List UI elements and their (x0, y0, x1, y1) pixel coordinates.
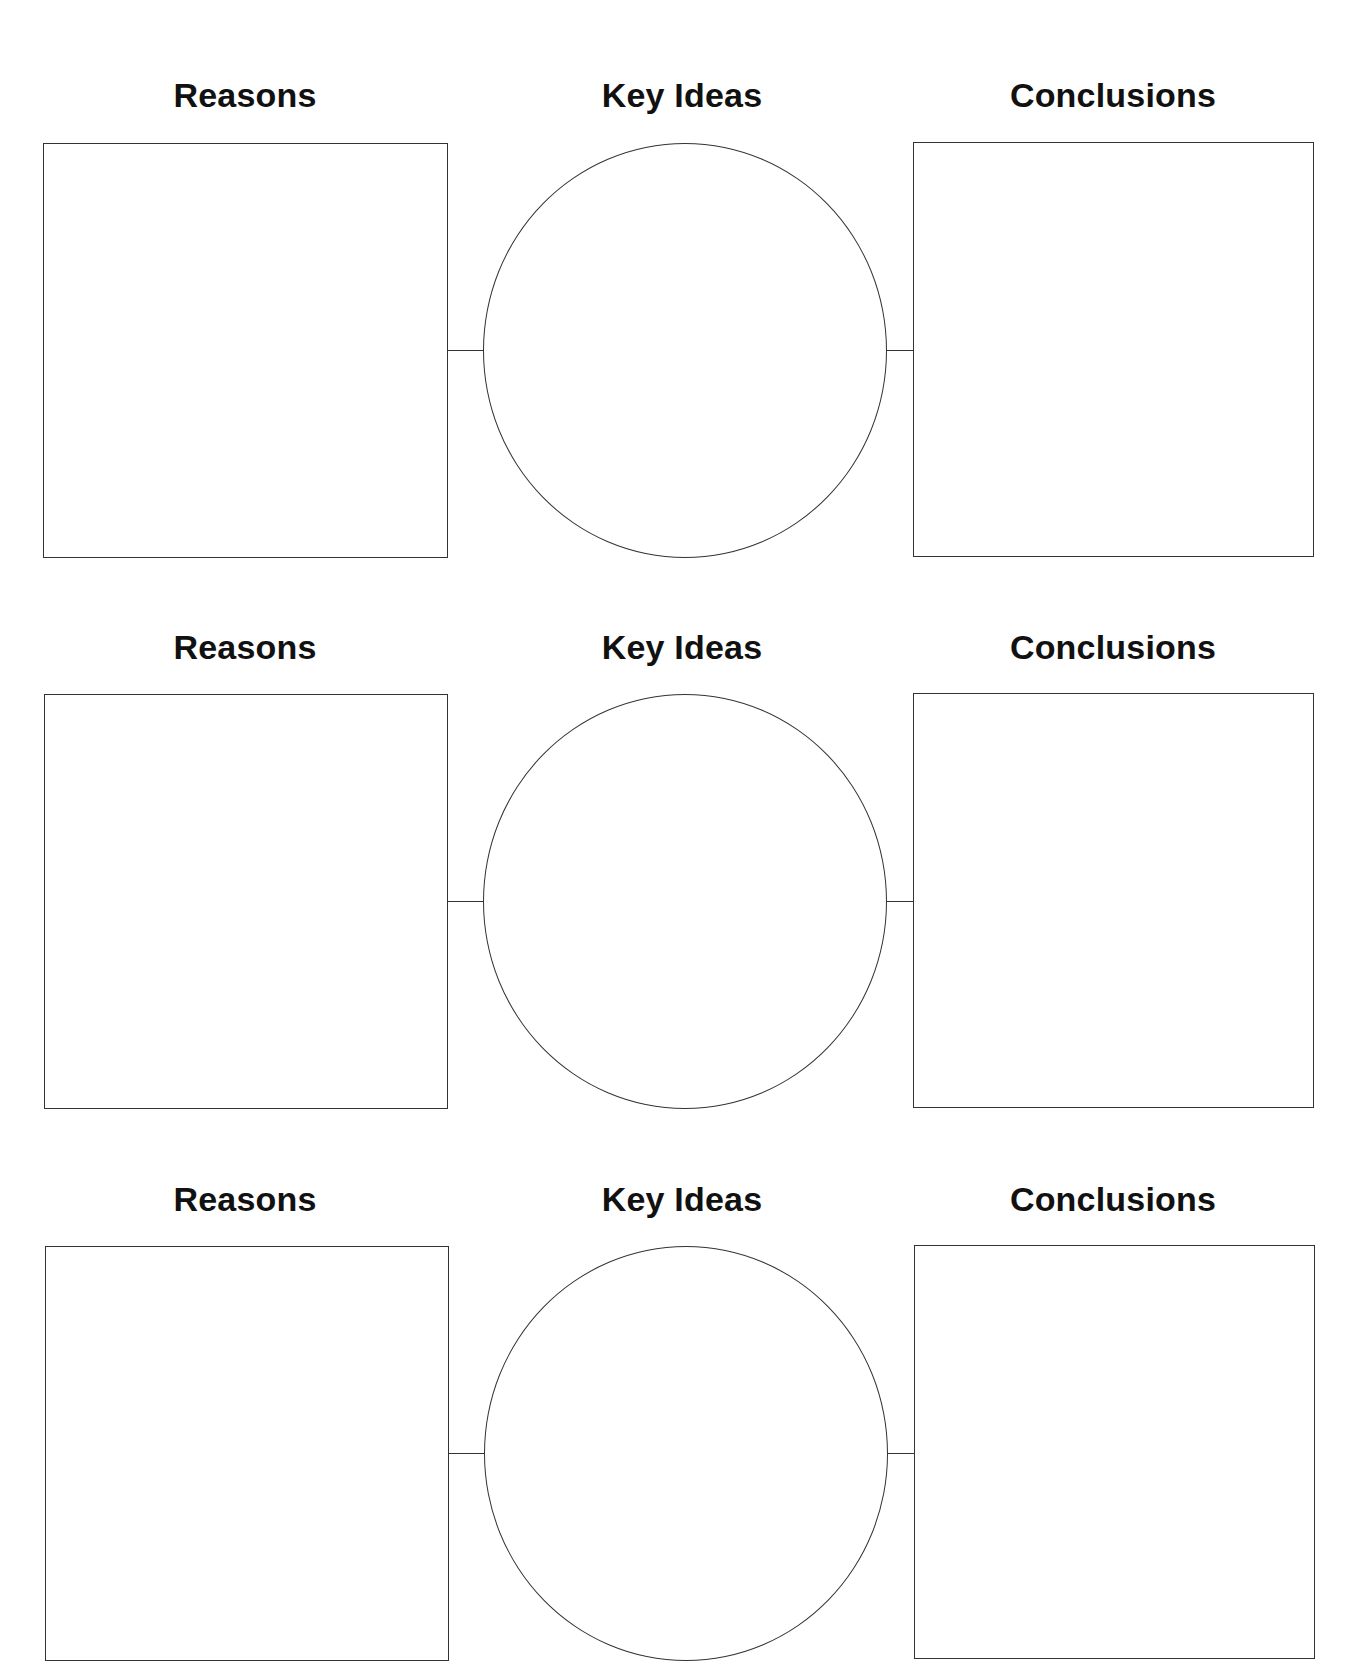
right-connector-line (886, 350, 914, 351)
conclusions-heading: Conclusions (963, 76, 1263, 115)
left-connector-line (447, 901, 484, 902)
reasons-box[interactable] (44, 694, 448, 1109)
conclusions-heading: Conclusions (963, 1180, 1263, 1219)
key-ideas-heading: Key Ideas (532, 76, 832, 115)
reasons-heading: Reasons (95, 628, 395, 667)
reasons-heading: Reasons (95, 1180, 395, 1219)
right-connector-line (887, 1453, 915, 1454)
reasons-box[interactable] (43, 143, 448, 558)
reasons-heading: Reasons (95, 76, 395, 115)
conclusions-heading: Conclusions (963, 628, 1263, 667)
key-ideas-circle[interactable] (484, 1246, 888, 1661)
left-connector-line (448, 1453, 485, 1454)
left-connector-line (447, 350, 484, 351)
conclusions-box[interactable] (914, 1245, 1315, 1659)
key-ideas-heading: Key Ideas (532, 1180, 832, 1219)
conclusions-box[interactable] (913, 142, 1314, 557)
right-connector-line (886, 901, 914, 902)
key-ideas-circle[interactable] (483, 694, 887, 1109)
key-ideas-circle[interactable] (483, 143, 887, 558)
key-ideas-heading: Key Ideas (532, 628, 832, 667)
reasons-box[interactable] (45, 1246, 449, 1661)
conclusions-box[interactable] (913, 693, 1314, 1108)
